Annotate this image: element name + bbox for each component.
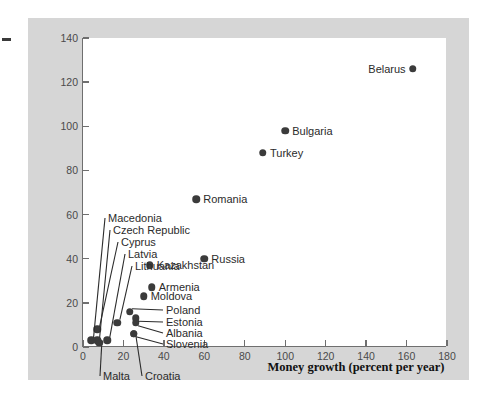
leader-line — [100, 346, 102, 376]
leader-label: Lithuania — [135, 261, 180, 272]
leader-label: Macedonia — [108, 213, 162, 224]
leader-line — [110, 254, 125, 337]
leader-line — [132, 309, 163, 310]
leader-label: Croatia — [145, 371, 180, 382]
leader-label: Malta — [103, 371, 130, 382]
leader-label: Czech Republic — [113, 225, 190, 236]
leader-line — [100, 242, 118, 326]
figure-scatter-plot: Inflation rate (percent per year) Money … — [0, 0, 497, 403]
leader-line — [138, 321, 163, 322]
leader-line — [136, 337, 142, 376]
leader-line — [136, 337, 163, 344]
leader-label: Latvia — [128, 249, 157, 260]
leader-line — [138, 326, 163, 333]
leader-label: Cyprus — [121, 237, 156, 248]
leader-label: Slovenia — [166, 339, 208, 350]
leader-line — [94, 218, 105, 337]
leader-label: Poland — [166, 305, 200, 316]
leader-lines-group — [0, 0, 497, 403]
